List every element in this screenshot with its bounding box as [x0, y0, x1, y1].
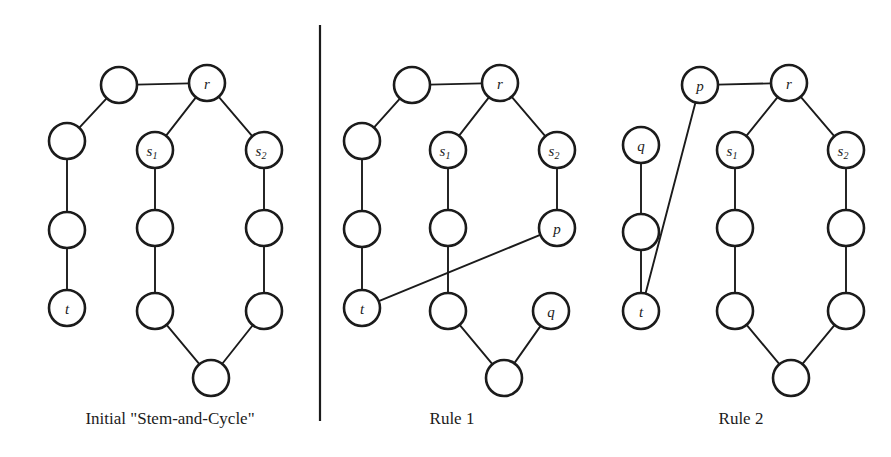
node-circle — [717, 210, 753, 246]
graph-node: r — [189, 65, 225, 101]
node-circle — [828, 132, 864, 168]
graph-node — [137, 293, 173, 329]
node-circle — [539, 132, 575, 168]
node-circle — [49, 123, 85, 159]
graph-node — [717, 293, 753, 329]
graph-node: r — [482, 65, 518, 101]
graph-edge — [137, 83, 190, 84]
graph-node: s1 — [137, 132, 173, 168]
graph-edge — [378, 235, 541, 302]
graph-edge — [746, 97, 778, 137]
graph-node — [344, 211, 380, 247]
graph-node — [101, 67, 137, 103]
graph-edge — [79, 98, 107, 128]
node-circle — [246, 210, 282, 246]
graph-edge — [218, 96, 252, 136]
node-circle — [430, 293, 466, 329]
graph-edge — [459, 324, 493, 364]
graph-node — [623, 214, 659, 250]
captions-layer: Initial "Stem-and-Cycle"Rule 1Rule 2 — [85, 409, 763, 428]
graph-node — [49, 123, 85, 159]
graph-node — [486, 360, 522, 396]
graph-node — [193, 360, 229, 396]
graph-node — [430, 210, 466, 246]
graph-edge — [718, 83, 772, 84]
graph-edge — [430, 83, 483, 84]
node-circle — [773, 360, 809, 396]
node-circle — [49, 212, 85, 248]
graph-node — [430, 293, 466, 329]
graph-edge — [514, 325, 541, 363]
node-circle — [344, 123, 380, 159]
graph-node — [394, 67, 430, 103]
node-circle — [771, 65, 807, 101]
graph-edge — [802, 325, 835, 365]
node-circle — [137, 210, 173, 246]
figure-root: trs1s2trs1s2pqpqtrs1s2 Initial "Stem-and… — [0, 0, 891, 457]
node-circle — [623, 127, 659, 163]
graph-node: t — [623, 293, 659, 329]
node-circle — [344, 211, 380, 247]
node-circle — [623, 293, 659, 329]
graph-edge — [459, 97, 490, 136]
node-circle — [486, 360, 522, 396]
node-circle — [717, 293, 753, 329]
graph-node: p — [682, 67, 718, 103]
graph-node: s2 — [828, 132, 864, 168]
node-circle — [246, 293, 282, 329]
graph-node: s2 — [539, 132, 575, 168]
node-circle — [344, 290, 380, 326]
graph-node: q — [533, 293, 569, 329]
graph-node: r — [771, 65, 807, 101]
graph-node — [344, 123, 380, 159]
panel-caption: Rule 2 — [719, 409, 764, 428]
node-circle — [137, 293, 173, 329]
panel-caption: Initial "Stem-and-Cycle" — [85, 409, 254, 428]
node-circle — [430, 132, 466, 168]
node-circle — [49, 290, 85, 326]
graph-node — [828, 293, 864, 329]
node-circle — [193, 360, 229, 396]
graph-node: s1 — [430, 132, 466, 168]
graph-node: t — [49, 290, 85, 326]
nodes-layer: trs1s2trs1s2pqpqtrs1s2 — [49, 65, 864, 396]
node-circle — [101, 67, 137, 103]
graph-edge — [166, 97, 197, 136]
node-circle — [682, 67, 718, 103]
node-circle — [623, 214, 659, 250]
node-circle — [137, 132, 173, 168]
graph-node: s2 — [246, 132, 282, 168]
graph-node — [49, 212, 85, 248]
node-circle — [482, 65, 518, 101]
node-circle — [717, 132, 753, 168]
graph-edge — [222, 325, 253, 365]
node-circle — [189, 65, 225, 101]
stem-and-cycle-diagram: trs1s2trs1s2pqpqtrs1s2 Initial "Stem-and… — [0, 0, 891, 457]
graph-node — [828, 210, 864, 246]
node-circle — [828, 210, 864, 246]
graph-node — [773, 360, 809, 396]
graph-edge — [800, 96, 834, 136]
graph-node: s1 — [717, 132, 753, 168]
node-circle — [246, 132, 282, 168]
graph-edge — [746, 324, 780, 364]
graph-edge — [511, 96, 545, 136]
graph-node — [246, 293, 282, 329]
node-circle — [828, 293, 864, 329]
graph-edge — [374, 98, 401, 128]
node-circle — [533, 293, 569, 329]
graph-node — [137, 210, 173, 246]
node-circle — [539, 210, 575, 246]
graph-node: p — [539, 210, 575, 246]
node-circle — [394, 67, 430, 103]
graph-edge — [166, 324, 200, 364]
graph-node: q — [623, 127, 659, 163]
graph-node — [717, 210, 753, 246]
node-circle — [430, 210, 466, 246]
graph-node — [246, 210, 282, 246]
graph-node: t — [344, 290, 380, 326]
panel-caption: Rule 1 — [430, 409, 475, 428]
